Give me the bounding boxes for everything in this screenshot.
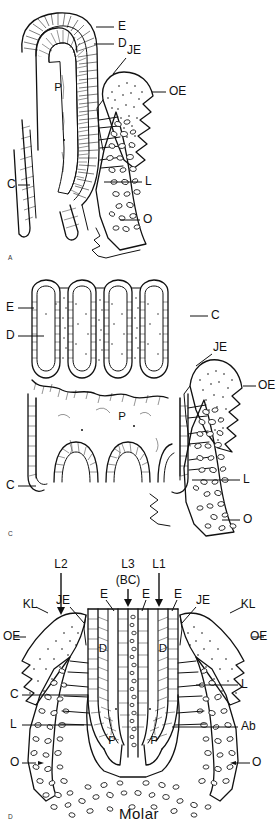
panel-d-label-E3: E: [174, 587, 182, 601]
panel-d-label-KL-left: KL: [23, 597, 38, 611]
panel-d-label-OE-right: OE: [250, 629, 267, 643]
panel-d-label-O-right: O: [252, 755, 261, 769]
panel-a-label-O: O: [143, 212, 152, 226]
panel-c-label-L: L: [243, 472, 250, 486]
panel-a-label-L: L: [145, 174, 152, 188]
tooth-histology-figure: P: [0, 0, 278, 823]
panel-d-label-C: C: [10, 687, 19, 701]
panel-d-label-D2: D: [159, 642, 167, 654]
panel-d-label-L3: L3: [121, 557, 135, 571]
panel-a-label-OE: OE: [169, 84, 186, 98]
panel-d-label-L-right: L: [241, 677, 248, 691]
panel-c-label-C-bottom: C: [6, 478, 15, 492]
panel-d-label-L1: L1: [152, 557, 166, 571]
panel-d-mark: D: [8, 813, 13, 820]
panel-a-label-C: C: [7, 177, 16, 191]
panel-d-label-O-left: O: [10, 755, 19, 769]
panel-a: P: [0, 0, 278, 265]
panel-d-label-BC: (BC): [116, 573, 141, 587]
figure-caption: Molar: [119, 805, 159, 822]
panel-d-label-E1: E: [100, 587, 108, 601]
panel-d-label-KL-right: KL: [241, 597, 256, 611]
panel-c-mark: C: [8, 530, 13, 537]
panel-a-label-JE: JE: [127, 43, 141, 57]
panel-a-mark: A: [8, 254, 13, 261]
panel-c-label-D: D: [6, 328, 15, 342]
panel-a-label-D: D: [118, 36, 127, 50]
panel-d-label-L2: L2: [54, 557, 68, 571]
panel-c-label-P: P: [118, 410, 126, 422]
panel-c-label-C-top: C: [211, 308, 220, 322]
panel-d-label-P2: P: [150, 734, 158, 746]
panel-d-label-L-left: L: [10, 717, 17, 731]
panel-d-label-E2: E: [142, 587, 150, 601]
panel-c-label-E: E: [6, 300, 14, 314]
panel-c: P: [0, 268, 278, 540]
panel-d-label-OE-left: OE: [3, 629, 20, 643]
panel-d-label-D1: D: [99, 642, 107, 654]
panel-c-label-JE: JE: [213, 340, 227, 354]
panel-a-label-P: P: [54, 81, 62, 93]
arrow-L3: [124, 589, 132, 607]
arrow-L1: [155, 573, 163, 607]
panel-d: L2 L3 (BC) L1 E E E: [0, 545, 278, 823]
panel-c-label-O: O: [243, 512, 252, 526]
panel-c-label-OE: OE: [258, 378, 275, 392]
panel-a-label-E: E: [118, 19, 126, 33]
panel-d-label-JE-left: JE: [56, 593, 70, 607]
panel-d-label-P1: P: [108, 734, 116, 746]
panel-d-label-Ab: Ab: [241, 719, 256, 733]
panel-d-label-JE-right: JE: [196, 593, 210, 607]
